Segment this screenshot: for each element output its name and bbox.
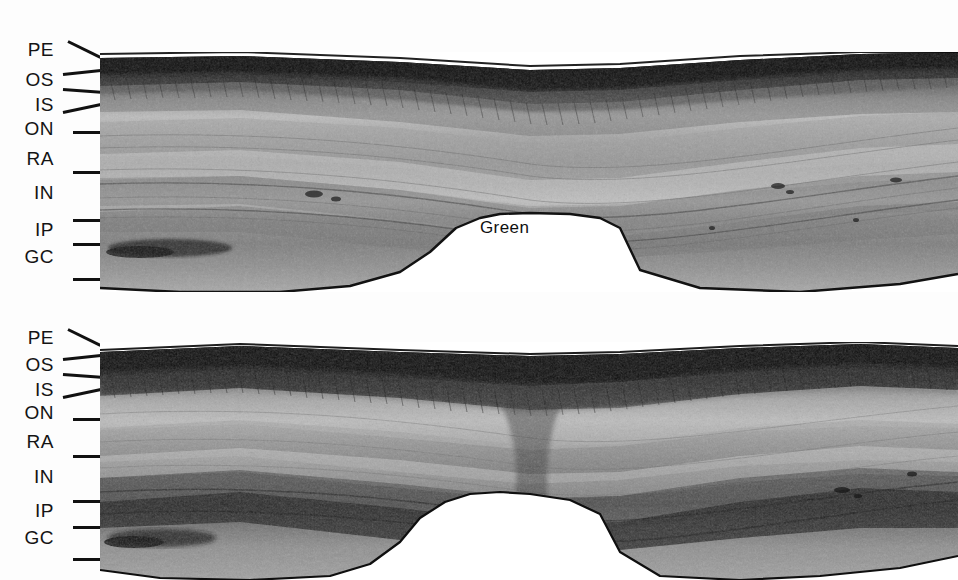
layer-label-os: OS xyxy=(8,70,54,89)
layer-label-gc: GC xyxy=(8,528,54,547)
micrograph-green xyxy=(100,52,958,292)
micrograph-blue xyxy=(100,342,958,580)
layer-label-ra: RA xyxy=(8,149,54,168)
layer-label-ip: IP xyxy=(8,220,54,239)
retina-section-blue xyxy=(100,342,958,580)
layer-label-is: IS xyxy=(8,95,54,114)
leader-tick-0 xyxy=(67,40,101,58)
layer-label-on: ON xyxy=(8,119,54,138)
layer-label-column-green: PEOSISONRAINIPGC xyxy=(0,0,100,300)
leader-tick-4 xyxy=(73,131,101,134)
layer-label-ip: IP xyxy=(8,501,54,520)
layer-label-os: OS xyxy=(8,355,54,374)
leader-tick-1 xyxy=(63,69,101,76)
leader-tick-6 xyxy=(73,219,101,222)
layer-label-ra: RA xyxy=(8,432,54,451)
leader-tick-7 xyxy=(73,243,101,246)
leader-tick-3 xyxy=(63,103,103,114)
retina-section-green xyxy=(100,52,958,292)
panel-caption-green: Green xyxy=(480,218,529,238)
panel-green: PEOSISONRAINIPGC xyxy=(0,0,958,300)
leader-tick-5 xyxy=(73,171,101,174)
layer-label-gc: GC xyxy=(8,247,54,266)
layer-label-pe: PE xyxy=(8,40,54,59)
leader-tick-5 xyxy=(73,455,101,458)
layer-label-column-blue: PEOSISONRAINIPGC xyxy=(0,300,100,580)
leader-tick-4 xyxy=(73,418,101,421)
leader-tick-2 xyxy=(63,88,101,94)
leader-tick-1 xyxy=(63,354,101,361)
leader-tick-2 xyxy=(63,373,101,379)
leader-tick-8 xyxy=(73,558,101,561)
layer-label-in: IN xyxy=(8,183,54,202)
leader-tick-8 xyxy=(73,278,101,281)
layer-label-in: IN xyxy=(8,467,54,486)
figure-root: PEOSISONRAINIPGC xyxy=(0,0,958,580)
leader-tick-3 xyxy=(63,388,103,399)
layer-label-on: ON xyxy=(8,403,54,422)
layer-label-pe: PE xyxy=(8,328,54,347)
leader-tick-7 xyxy=(73,526,101,529)
layer-label-is: IS xyxy=(8,380,54,399)
leader-tick-6 xyxy=(73,500,101,503)
leader-tick-0 xyxy=(67,328,101,346)
panel-blue: PEOSISONRAINIPGC xyxy=(0,300,958,580)
